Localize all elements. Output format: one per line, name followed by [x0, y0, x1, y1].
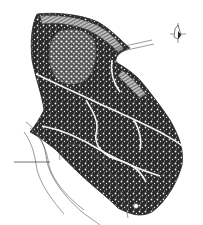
- feature-roundel: [134, 204, 139, 209]
- site-plan-map: [0, 0, 203, 225]
- clearing: [49, 29, 96, 84]
- north-arrow-icon: [170, 23, 186, 43]
